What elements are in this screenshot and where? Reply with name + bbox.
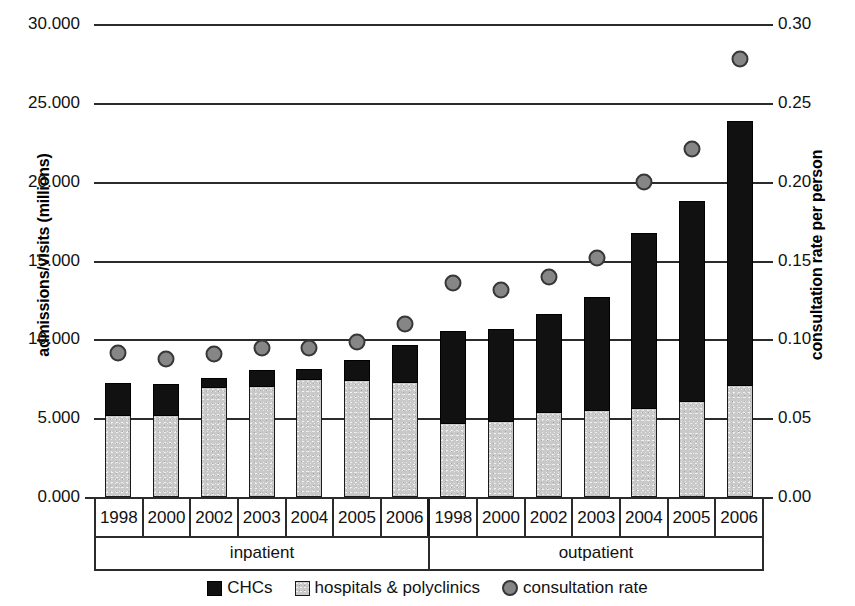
- x-axis-tick-label: 2004: [621, 499, 669, 536]
- x-axis-category-row: 1998200020022003200420052006199820002002…: [94, 497, 764, 538]
- y-axis-left-tick-label: 15.000: [28, 252, 80, 269]
- bar-segment-hospitals: [679, 401, 705, 497]
- bar-segment-chcs: [679, 201, 705, 402]
- y-axis-right-tick-label: 0.15: [778, 252, 811, 269]
- legend-item: hospitals & polyclinics: [295, 578, 480, 598]
- y-axis-left-tick-label: 25.000: [28, 94, 80, 111]
- data-point-consultation-rate: [540, 268, 557, 285]
- x-axis-tick-label: 2005: [669, 499, 717, 536]
- legend-label: hospitals & polyclinics: [315, 578, 480, 598]
- bar-segment-hospitals: [631, 408, 657, 497]
- x-axis-tick-label: 2005: [334, 499, 382, 536]
- axis-tick-right: [764, 24, 773, 26]
- y-axis-left-tick-label: 5.000: [37, 409, 80, 426]
- bar-segment-chcs: [631, 233, 657, 409]
- data-point-consultation-rate: [492, 281, 509, 298]
- bar-segment-chcs: [584, 297, 610, 411]
- bar-segment-chcs: [727, 121, 753, 386]
- bar-segment-hospitals: [727, 385, 753, 497]
- x-axis-tick-label: 2000: [144, 499, 192, 536]
- data-point-consultation-rate: [109, 344, 126, 361]
- bar-segment-chcs: [249, 370, 275, 387]
- bar-segment-hospitals: [201, 387, 227, 497]
- bar-segment-hospitals: [488, 421, 514, 497]
- axis-tick-right: [764, 182, 773, 184]
- axis-tick-right: [764, 497, 773, 499]
- bar-segment-chcs: [392, 345, 418, 383]
- axis-tick-right: [764, 418, 773, 420]
- data-point-consultation-rate: [732, 51, 749, 68]
- x-axis-tick-label: 2004: [287, 499, 335, 536]
- plot-area: 0.0005.00010.00015.00020.00025.00030.000…: [94, 24, 764, 497]
- bar-segment-chcs: [296, 369, 322, 380]
- legend-swatch-icon: [207, 581, 222, 596]
- data-point-consultation-rate: [588, 249, 605, 266]
- x-axis-tick-label: 2006: [716, 499, 762, 536]
- bar-segment-chcs: [153, 384, 179, 416]
- legend-swatch-icon: [295, 581, 310, 596]
- x-axis-tick-label: 2002: [526, 499, 574, 536]
- data-point-consultation-rate: [205, 346, 222, 363]
- bar-segment-chcs: [344, 360, 370, 381]
- x-axis-tick-label: 2003: [239, 499, 287, 536]
- gridline: [94, 103, 764, 105]
- x-axis-group-label: outpatient: [430, 537, 762, 569]
- legend-item: consultation rate: [502, 578, 648, 598]
- bar-segment-hospitals: [153, 415, 179, 497]
- bar-segment-hospitals: [344, 380, 370, 497]
- axis-tick-right: [764, 103, 773, 105]
- data-point-consultation-rate: [397, 316, 414, 333]
- x-axis-tick-label: 2006: [382, 499, 431, 536]
- y-axis-right-tick-label: 0.00: [778, 488, 811, 505]
- y-axis-left-tick-label: 30.000: [28, 15, 80, 32]
- bar-segment-hospitals: [440, 423, 466, 497]
- x-axis-tick-label: 2003: [573, 499, 621, 536]
- x-axis-tick-label: 1998: [96, 499, 144, 536]
- x-axis-group-label: inpatient: [96, 537, 430, 569]
- chart-figure: admissions/visits (millions) consultatio…: [0, 0, 855, 606]
- data-point-consultation-rate: [301, 339, 318, 356]
- chart-legend: CHCshospitals & polyclinicsconsultation …: [0, 578, 855, 598]
- axis-tick-right: [764, 339, 773, 341]
- x-axis-tick-label: 2002: [191, 499, 239, 536]
- axis-tick: [85, 497, 94, 499]
- data-point-consultation-rate: [253, 339, 270, 356]
- legend-swatch-icon: [502, 580, 518, 596]
- data-point-consultation-rate: [157, 350, 174, 367]
- x-axis-tick-label: 2000: [478, 499, 526, 536]
- y-axis-right-tick-label: 0.05: [778, 409, 811, 426]
- bar-segment-chcs: [201, 378, 227, 388]
- bar-segment-hospitals: [296, 379, 322, 497]
- axis-tick-right: [764, 261, 773, 263]
- bar-segment-hospitals: [392, 382, 418, 497]
- gridline: [94, 418, 764, 420]
- legend-label: consultation rate: [523, 578, 648, 598]
- bar-segment-chcs: [536, 314, 562, 413]
- gridline: [94, 339, 764, 341]
- y-axis-right-tick-label: 0.10: [778, 330, 811, 347]
- bar-segment-hospitals: [584, 410, 610, 497]
- x-axis-group-row: inpatientoutpatient: [94, 537, 764, 571]
- data-point-consultation-rate: [444, 275, 461, 292]
- legend-label: CHCs: [227, 578, 272, 598]
- data-point-consultation-rate: [636, 174, 653, 191]
- y-axis-right-tick-label: 0.25: [778, 94, 811, 111]
- gridline: [94, 24, 764, 26]
- y-axis-left-tick-label: 20.000: [28, 173, 80, 190]
- x-axis-tick-label: 1998: [430, 499, 478, 536]
- gridline: [94, 261, 764, 263]
- bar-segment-hospitals: [105, 415, 131, 497]
- gridline: [94, 182, 764, 184]
- data-point-consultation-rate: [684, 141, 701, 158]
- bar-segment-chcs: [105, 383, 131, 416]
- bar-segment-chcs: [488, 329, 514, 421]
- y-axis-left-tick-label: 10.000: [28, 330, 80, 347]
- bar-segment-hospitals: [249, 386, 275, 497]
- y-axis-left-tick-label: 0.000: [37, 488, 80, 505]
- legend-item: CHCs: [207, 578, 272, 598]
- y-axis-right-tick-label: 0.20: [778, 173, 811, 190]
- bar-segment-hospitals: [536, 412, 562, 497]
- bar-segment-chcs: [440, 331, 466, 424]
- data-point-consultation-rate: [349, 333, 366, 350]
- y-axis-right-tick-label: 0.30: [778, 15, 811, 32]
